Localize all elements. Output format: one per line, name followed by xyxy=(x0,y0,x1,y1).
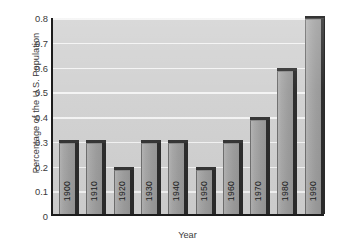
y-axis-tick-0.4: 0.4 xyxy=(24,112,48,123)
y-axis-tick-0.7: 0.7 xyxy=(24,37,48,48)
bar-front-face xyxy=(305,19,321,214)
bar-front-face xyxy=(250,120,266,214)
y-axis-tick-0.6: 0.6 xyxy=(24,62,48,73)
bar-side-face xyxy=(266,120,270,214)
bar-1960: 1960 xyxy=(223,140,243,214)
bar-series: 1900191019201930194019501960197019801990 xyxy=(53,18,324,214)
bar-front-face xyxy=(277,71,293,214)
plot-area: 1900191019201930194019501960197019801990 xyxy=(51,18,324,216)
y-axis-tick-0.1: 0.1 xyxy=(24,186,48,197)
y-axis-tick-0.2: 0.2 xyxy=(24,161,48,172)
bar-1940: 1940 xyxy=(168,140,188,214)
bar-side-face xyxy=(184,143,188,214)
bar-1970: 1970 xyxy=(250,117,270,214)
bar-front-face xyxy=(196,170,212,214)
bar-side-face xyxy=(239,143,243,214)
bar-1910: 1910 xyxy=(86,140,106,214)
bar-front-face xyxy=(223,143,239,214)
bar-side-face xyxy=(130,170,134,214)
bar-1990: 1990 xyxy=(305,16,325,214)
bar-front-face xyxy=(114,170,130,214)
bar-side-face xyxy=(321,19,325,214)
bar-front-face xyxy=(86,143,102,214)
y-axis-tick-0.3: 0.3 xyxy=(24,136,48,147)
bar-1980: 1980 xyxy=(277,68,297,214)
bar-front-face xyxy=(168,143,184,214)
bar-side-face xyxy=(293,71,297,214)
x-axis-title: Year xyxy=(51,230,324,240)
y-axis-tick-0.5: 0.5 xyxy=(24,87,48,98)
y-axis-tick-labels: 00.10.20.30.40.50.60.70.8 xyxy=(24,18,48,216)
bar-front-face xyxy=(141,143,157,214)
bar-chart-figure: Percentage of the U.S. Population 00.10.… xyxy=(0,0,337,251)
bar-side-face xyxy=(212,170,216,214)
y-axis-tick-0: 0 xyxy=(24,211,48,222)
bar-1950: 1950 xyxy=(196,167,216,214)
bar-1920: 1920 xyxy=(114,167,134,214)
bar-1930: 1930 xyxy=(141,140,161,214)
y-axis-tick-0.8: 0.8 xyxy=(24,13,48,24)
bar-front-face xyxy=(59,143,75,214)
bar-side-face xyxy=(102,143,106,214)
bar-1900: 1900 xyxy=(59,140,79,214)
bar-side-face xyxy=(75,143,79,214)
bar-side-face xyxy=(157,143,161,214)
